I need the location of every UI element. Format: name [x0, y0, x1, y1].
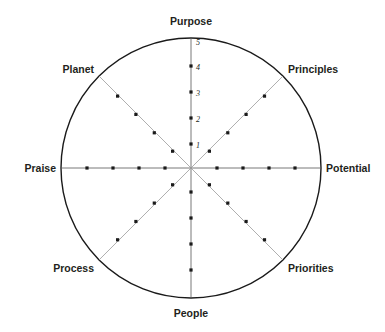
tick-dot — [226, 131, 229, 134]
scale-label-2: 2 — [196, 115, 200, 124]
axis-label-people: People — [174, 307, 209, 319]
tick-dot — [137, 166, 140, 169]
tick-dot — [171, 183, 174, 186]
tick-dot — [215, 166, 218, 169]
tick-dot — [241, 166, 244, 169]
axis-label-priorities: Priorities — [288, 262, 334, 274]
scale-label-5: 5 — [196, 38, 200, 47]
tick-dot — [208, 183, 211, 186]
tick-dot — [116, 95, 119, 98]
tick-dot — [171, 150, 174, 153]
tick-dot — [153, 202, 156, 205]
axis-label-purpose: Purpose — [170, 15, 212, 27]
axis-label-process: Process — [53, 262, 94, 274]
tick-dot — [226, 202, 229, 205]
tick-dot — [85, 166, 88, 169]
axis-label-principles: Principles — [288, 63, 338, 75]
tick-dot — [189, 64, 192, 67]
tick-dot — [116, 238, 119, 241]
axis-label-planet: Planet — [62, 63, 94, 75]
radar-chart-svg: 5 4 3 2 1 Purpose Principles Potential P… — [0, 0, 385, 332]
tick-dot — [245, 113, 248, 116]
axis-label-praise: Praise — [24, 162, 56, 174]
tick-dot — [134, 113, 137, 116]
tick-dot — [189, 190, 192, 193]
tick-dot — [263, 238, 266, 241]
tick-dot — [111, 166, 114, 169]
tick-dot — [189, 268, 192, 271]
tick-dot — [189, 142, 192, 145]
axis-label-potential: Potential — [326, 162, 370, 174]
tick-dot — [189, 90, 192, 93]
tick-dot — [189, 216, 192, 219]
tick-dot — [189, 242, 192, 245]
tick-dot — [163, 166, 166, 169]
tick-dot — [134, 220, 137, 223]
tick-dot — [263, 95, 266, 98]
tick-dot — [293, 166, 296, 169]
tick-dot — [189, 116, 192, 119]
scale-label-4: 4 — [196, 63, 200, 72]
scale-label-1: 1 — [196, 141, 200, 150]
scale-label-3: 3 — [195, 89, 200, 98]
tick-dot — [208, 150, 211, 153]
radar-chart-page: 5 4 3 2 1 Purpose Principles Potential P… — [0, 0, 385, 332]
tick-dot — [245, 220, 248, 223]
tick-dot — [153, 131, 156, 134]
tick-dot — [267, 166, 270, 169]
